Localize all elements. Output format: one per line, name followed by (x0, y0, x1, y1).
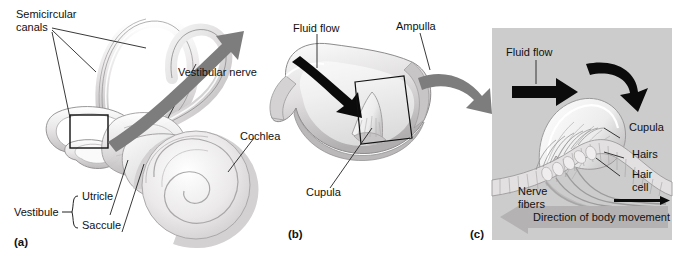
label-utricle: Utricle (82, 190, 113, 202)
label-fluid-flow-b: Fluid flow (293, 22, 339, 34)
label-fluid-flow-c: Fluid flow (506, 46, 552, 58)
panel-mark-a: (a) (14, 236, 28, 248)
label-hairs: Hairs (632, 148, 658, 160)
label-hair-cell-line1: Hair (632, 168, 652, 180)
vestibule-bracket (62, 196, 78, 228)
label-cupula-c: Cupula (629, 121, 664, 133)
label-semicircular-canals-line2: canals (16, 21, 48, 33)
vestibular-apparatus-figure: Semicircular canals Vestibular nerve Coc… (0, 0, 686, 257)
label-vestibule: Vestibule (14, 206, 59, 218)
label-cupula-b: Cupula (306, 186, 341, 198)
label-saccule: Saccule (82, 219, 121, 231)
panel-b-artwork (270, 43, 431, 160)
panel-mark-b: (b) (288, 228, 303, 240)
label-direction-of-body-movement: Direction of body movement (533, 211, 670, 223)
label-nerve-fibers-line2: fibers (518, 198, 545, 210)
label-hair-cell-line2: cell (632, 181, 649, 193)
panel-mark-c: (c) (470, 228, 484, 240)
label-cochlea: Cochlea (240, 130, 280, 142)
label-ampulla: Ampulla (396, 20, 436, 32)
label-semicircular-canals-line1: Semicircular (16, 8, 77, 20)
label-vestibular-nerve: Vestibular nerve (178, 66, 257, 78)
label-nerve-fibers-line1: Nerve (518, 185, 547, 197)
